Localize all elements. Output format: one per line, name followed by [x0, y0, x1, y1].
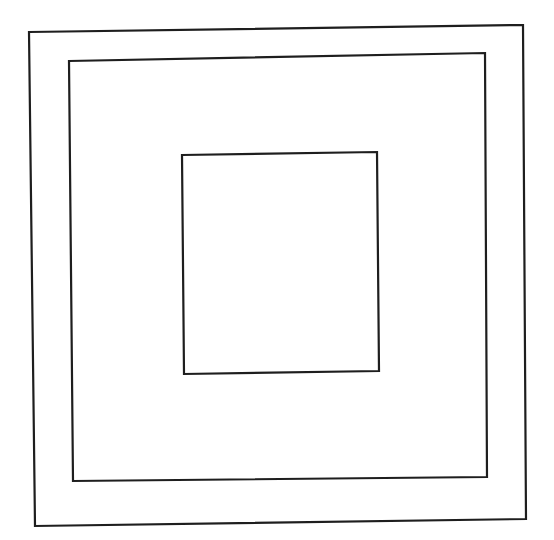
middle-square — [69, 53, 487, 481]
inner-rectangle — [182, 152, 379, 374]
nested-squares-diagram — [0, 0, 554, 540]
outer-square — [29, 25, 526, 526]
